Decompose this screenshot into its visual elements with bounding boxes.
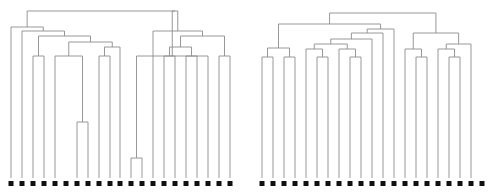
dendro-link-m1 xyxy=(77,122,88,178)
left-dendrogram-links xyxy=(11,11,230,178)
dendro-link-r19 xyxy=(330,13,436,33)
dendro-link-m15 xyxy=(181,36,225,56)
dendro-link-r17 xyxy=(446,44,471,178)
dendro-link-m12 xyxy=(186,56,197,178)
leaf-marker xyxy=(42,181,47,186)
left-dendrogram-leaves xyxy=(9,181,233,186)
leaf-marker xyxy=(118,181,123,186)
right-dendrogram-leaves xyxy=(260,181,485,186)
leaf-marker xyxy=(31,181,36,186)
leaf-marker xyxy=(315,181,320,186)
dendro-link-r1 xyxy=(262,57,273,178)
leaf-marker xyxy=(436,181,441,186)
leaf-marker xyxy=(271,181,276,186)
leaf-marker xyxy=(260,181,265,186)
dendro-link-m2 xyxy=(131,158,142,178)
dendro-link-m18 xyxy=(172,11,178,56)
dendro-link-m14 xyxy=(219,56,230,178)
dendro-link-r13 xyxy=(416,57,427,178)
leaf-marker xyxy=(293,181,298,186)
right-dendrogram-links xyxy=(262,13,471,178)
leaf-marker xyxy=(195,181,200,186)
leaf-marker xyxy=(480,181,485,186)
dendro-link-r9 xyxy=(331,39,372,178)
leaf-marker xyxy=(9,181,14,186)
dendro-link-r6 xyxy=(350,57,361,178)
leaf-marker xyxy=(108,181,113,186)
leaf-marker xyxy=(64,181,69,186)
dendro-link-r8 xyxy=(314,44,347,49)
leaf-marker xyxy=(129,181,134,186)
dendro-link-m16 xyxy=(153,31,203,178)
dendro-link-m13 xyxy=(170,47,192,56)
dendro-link-r15 xyxy=(449,57,460,178)
dendro-link-m5 xyxy=(99,56,110,178)
leaf-marker xyxy=(97,181,102,186)
dendro-link-m19 xyxy=(27,11,175,27)
left-dendrogram xyxy=(9,11,233,186)
leaf-marker xyxy=(381,181,386,186)
leaf-marker xyxy=(162,181,167,186)
leaf-marker xyxy=(20,181,25,186)
dendro-link-r16 xyxy=(438,49,455,178)
dendro-link-r14 xyxy=(405,49,422,178)
dendrogram-canvas xyxy=(0,0,492,194)
leaf-marker xyxy=(75,181,80,186)
dendro-link-r11 xyxy=(367,29,394,178)
right-dendrogram xyxy=(260,13,485,186)
leaf-marker xyxy=(184,181,189,186)
leaf-marker xyxy=(425,181,430,186)
leaf-marker xyxy=(86,181,91,186)
leaf-marker xyxy=(447,181,452,186)
leaf-marker xyxy=(206,181,211,186)
leaf-marker xyxy=(173,181,178,186)
dendro-link-m9 xyxy=(22,31,65,178)
leaf-marker xyxy=(140,181,145,186)
leaf-marker xyxy=(469,181,474,186)
leaf-marker xyxy=(304,181,309,186)
dendrogram-figure xyxy=(0,0,492,194)
dendro-link-m11 xyxy=(164,56,175,178)
dendro-link-m6 xyxy=(105,47,121,178)
leaf-marker xyxy=(403,181,408,186)
leaf-marker xyxy=(359,181,364,186)
leaf-marker xyxy=(348,181,353,186)
leaf-marker xyxy=(326,181,331,186)
leaf-marker xyxy=(228,181,233,186)
dendro-link-m8 xyxy=(39,36,91,56)
leaf-marker xyxy=(392,181,397,186)
dendro-link-r5 xyxy=(306,49,323,178)
leaf-marker xyxy=(458,181,463,186)
leaf-marker xyxy=(217,181,222,186)
dendro-link-r10 xyxy=(351,33,383,178)
leaf-marker xyxy=(370,181,375,186)
dendro-link-r3 xyxy=(268,48,290,57)
dendro-link-m4 xyxy=(33,56,44,178)
dendro-link-r7 xyxy=(339,49,356,178)
leaf-marker xyxy=(337,181,342,186)
dendro-link-r2 xyxy=(284,57,295,178)
leaf-marker xyxy=(53,181,58,186)
leaf-marker xyxy=(414,181,419,186)
leaf-marker xyxy=(282,181,287,186)
dendro-link-m7 xyxy=(69,42,113,56)
dendro-link-r18 xyxy=(413,33,458,49)
leaf-marker xyxy=(151,181,156,186)
dendro-link-r4 xyxy=(317,57,328,178)
dendro-link-m3 xyxy=(55,56,83,178)
